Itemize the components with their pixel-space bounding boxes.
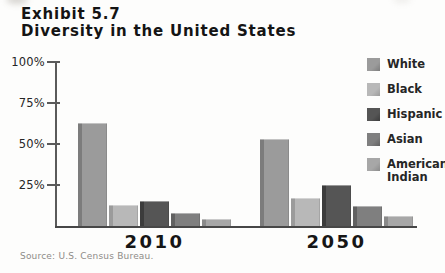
bar-american-indian-2010 xyxy=(202,219,231,226)
legend-label-black: Black xyxy=(387,83,445,96)
y-tick-label-75: 75% xyxy=(4,96,45,110)
exhibit-number: Exhibit 5.7 xyxy=(21,6,296,23)
legend-swatch-american-indian xyxy=(367,158,380,171)
bar-group-2010 xyxy=(78,123,231,226)
exhibit-chart-page: Exhibit 5.7 Diversity in the United Stat… xyxy=(0,0,445,273)
category-label-2050: 2050 xyxy=(260,231,413,252)
bar-asian-2050 xyxy=(353,206,382,226)
bar-black-2010 xyxy=(109,205,138,226)
bar-american-indian-2050 xyxy=(384,216,413,226)
title-block: Exhibit 5.7 Diversity in the United Stat… xyxy=(21,6,296,40)
legend: WhiteBlackHispanicAsianAmerican Indian xyxy=(367,58,445,195)
legend-label-hispanic: Hispanic xyxy=(387,108,445,121)
legend-item-white: White xyxy=(367,58,445,71)
legend-label-white: White xyxy=(387,58,445,71)
legend-label-american-indian: American Indian xyxy=(387,158,445,183)
y-tick-label-50: 50% xyxy=(4,137,45,151)
legend-swatch-asian xyxy=(367,133,380,146)
chart-title: Diversity in the United States xyxy=(21,23,296,40)
y-tick-mark-50 xyxy=(47,143,60,145)
source-note: Source: U.S. Census Bureau. xyxy=(20,251,154,261)
bar-asian-2010 xyxy=(171,213,200,226)
scan-smudge xyxy=(393,0,411,3)
legend-swatch-black xyxy=(367,83,380,96)
y-tick-label-100: 100% xyxy=(4,55,45,69)
category-label-2010: 2010 xyxy=(78,231,231,252)
y-tick-mark-25 xyxy=(47,184,60,186)
legend-swatch-hispanic xyxy=(367,108,380,121)
bar-hispanic-2010 xyxy=(140,201,169,226)
legend-swatch-white xyxy=(367,58,380,71)
bar-white-2010 xyxy=(78,123,107,226)
x-axis-line xyxy=(55,226,417,228)
legend-item-black: Black xyxy=(367,83,445,96)
legend-item-asian: Asian xyxy=(367,133,445,146)
y-tick-mark-75 xyxy=(47,102,60,104)
legend-label-asian: Asian xyxy=(387,133,445,146)
y-tick-label-25: 25% xyxy=(4,178,45,192)
y-tick-mark-100 xyxy=(47,61,60,63)
legend-item-hispanic: Hispanic xyxy=(367,108,445,121)
bar-black-2050 xyxy=(291,198,320,226)
bar-white-2050 xyxy=(260,139,289,226)
legend-item-american-indian: American Indian xyxy=(367,158,445,183)
bar-hispanic-2050 xyxy=(322,185,351,226)
scan-smudge xyxy=(6,0,28,4)
